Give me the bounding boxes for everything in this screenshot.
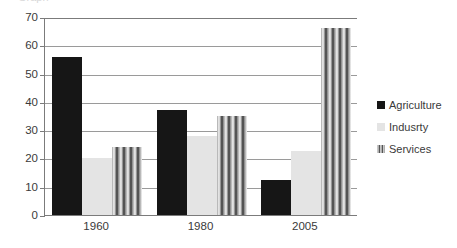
x-axis-labels: 196019802005 (44, 220, 357, 242)
bar-chart: 010203040506070 196019802005 Agriculture… (0, 6, 457, 248)
bar-services-2005 (321, 28, 351, 215)
y-axis-tick-label: 30 (4, 125, 38, 137)
clipped-title-text: Graph (18, 0, 49, 3)
bar-agriculture-1960 (52, 57, 82, 215)
legend-swatch-icon (377, 101, 385, 109)
y-tick-60 (40, 46, 45, 47)
legend-swatch-icon (377, 123, 385, 131)
y-axis-labels: 010203040506070 (0, 18, 38, 216)
y-tick-40 (40, 103, 45, 104)
y-axis-tick-label: 0 (4, 210, 38, 222)
bar-indusrty-1960 (82, 158, 112, 215)
gridline-70 (45, 18, 357, 19)
y-tick-10 (40, 188, 45, 189)
gridline-40 (45, 103, 357, 104)
y-tick-70 (40, 18, 45, 19)
plot-area (44, 18, 357, 216)
legend-label: Services (389, 144, 431, 155)
y-axis-tick-label: 60 (4, 41, 38, 53)
bar-indusrty-2005 (291, 151, 321, 215)
legend-item-indusrty[interactable]: Indusrty (377, 116, 457, 138)
bar-services-1980 (217, 116, 247, 215)
bar-indusrty-1980 (187, 136, 217, 215)
x-axis-tick-label: 1980 (188, 220, 214, 232)
y-tick-0 (40, 216, 45, 217)
gridline-50 (45, 75, 357, 76)
bar-agriculture-1980 (157, 110, 187, 215)
y-axis-tick-label: 10 (4, 182, 38, 194)
legend-label: Agriculture (389, 100, 442, 111)
legend-item-agriculture[interactable]: Agriculture (377, 94, 457, 116)
gridline-30 (45, 131, 357, 132)
x-axis-tick-label: 1960 (83, 220, 109, 232)
legend-label: Indusrty (389, 122, 428, 133)
bar-agriculture-2005 (261, 180, 291, 215)
x-axis-tick-label: 2005 (292, 220, 318, 232)
y-axis-tick-label: 50 (4, 69, 38, 81)
chart-legend: AgricultureIndusrtyServices (377, 94, 457, 160)
y-tick-50 (40, 75, 45, 76)
y-axis-tick-label: 40 (4, 97, 38, 109)
bar-services-1960 (112, 147, 142, 215)
y-axis-tick-label: 20 (4, 154, 38, 166)
y-tick-20 (40, 159, 45, 160)
legend-item-services[interactable]: Services (377, 138, 457, 160)
gridline-60 (45, 46, 357, 47)
y-axis-tick-label: 70 (4, 12, 38, 24)
y-tick-30 (40, 131, 45, 132)
legend-swatch-icon (377, 145, 385, 153)
